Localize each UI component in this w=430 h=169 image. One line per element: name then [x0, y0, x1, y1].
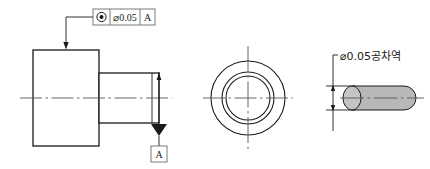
- stepped-shaft-front-view: [20, 50, 172, 146]
- tolerance-zone-cylinder: [340, 86, 424, 110]
- tolerance-zone-note-leader: [333, 55, 338, 131]
- tolerance-zone-detail: ⌀0.05공차역: [326, 50, 424, 131]
- feature-control-leader: [63, 17, 93, 50]
- fcf-tolerance-value: ⌀0.05: [113, 12, 137, 23]
- end-view-concentric-circles: [203, 46, 293, 150]
- fcf-datum-reference: A: [144, 12, 152, 23]
- technical-drawing-svg: ⌀0.05 A: [0, 0, 430, 169]
- technical-drawing-canvas: ⌀0.05 A: [0, 0, 430, 169]
- tolerance-zone-note: ⌀0.05공차역: [340, 50, 401, 63]
- datum-triangle-icon: [151, 124, 167, 136]
- leader-arrowhead-icon: [63, 42, 68, 50]
- datum-label-text: A: [155, 149, 163, 160]
- feature-control-frame[interactable]: ⌀0.05 A: [93, 9, 155, 25]
